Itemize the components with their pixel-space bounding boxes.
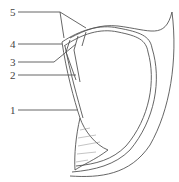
label-1: 1 (10, 105, 16, 116)
outer-boundary (70, 12, 174, 176)
anatomical-diagram: 5 4 3 2 1 (0, 0, 179, 182)
inner-wall-2 (76, 52, 151, 166)
label-5: 5 (10, 7, 16, 18)
label-3: 3 (10, 57, 16, 68)
label-2: 2 (10, 70, 16, 81)
diagram-drawing (0, 0, 179, 182)
label-4: 4 (10, 39, 16, 50)
strut-c (82, 32, 86, 46)
wedge (75, 118, 108, 170)
